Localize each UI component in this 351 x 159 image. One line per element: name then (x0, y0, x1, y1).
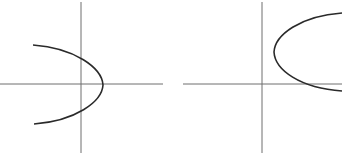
parabola-figure (0, 0, 351, 159)
